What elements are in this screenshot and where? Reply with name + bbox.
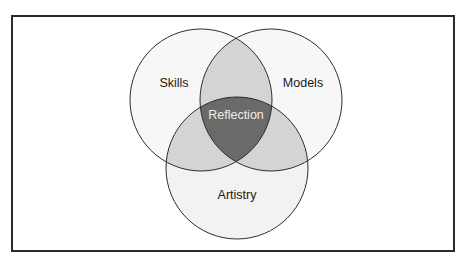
venn-diagram: Skills Models Artistry Reflection	[0, 0, 465, 264]
models-label: Models	[283, 76, 323, 90]
skills-label: Skills	[159, 76, 188, 90]
artistry-label: Artistry	[218, 188, 258, 202]
reflection-label: Reflection	[208, 108, 264, 122]
